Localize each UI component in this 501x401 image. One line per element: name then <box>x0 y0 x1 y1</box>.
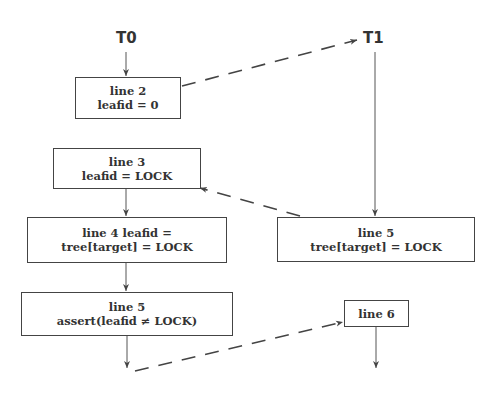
node-line-label: line 2 <box>110 84 146 98</box>
node-line-label: line 4 leafid = <box>82 226 172 240</box>
node-line-label: line 5 <box>358 226 394 240</box>
thread-label-t0: T0 <box>116 30 137 46</box>
node-line-label: line 5 <box>109 300 145 314</box>
node-t0-line2: line 2 leafid = 0 <box>75 77 181 119</box>
node-statement: tree[target] = LOCK <box>310 240 441 254</box>
node-statement: leafid = LOCK <box>82 169 172 183</box>
edge-t1line5-to-t0line3 <box>200 188 300 216</box>
node-t0-line4: line 4 leafid = tree[target] = LOCK <box>27 217 227 263</box>
node-t1-line6: line 6 <box>344 300 409 327</box>
node-statement: assert(leafid ≠ LOCK) <box>57 314 197 328</box>
node-t0-line3: line 3 leafid = LOCK <box>53 148 201 189</box>
node-t1-line5: line 5 tree[target] = LOCK <box>277 217 475 262</box>
node-t0-line5: line 5 assert(leafid ≠ LOCK) <box>21 292 233 336</box>
node-statement: leafid = 0 <box>97 98 158 112</box>
diagram-edges <box>0 0 501 401</box>
edge-line2-to-t1 <box>182 40 357 86</box>
thread-label-t1: T1 <box>363 30 384 46</box>
node-line-label: line 3 <box>109 155 145 169</box>
node-line-label: line 6 <box>358 307 394 321</box>
node-statement: tree[target] = LOCK <box>61 240 192 254</box>
